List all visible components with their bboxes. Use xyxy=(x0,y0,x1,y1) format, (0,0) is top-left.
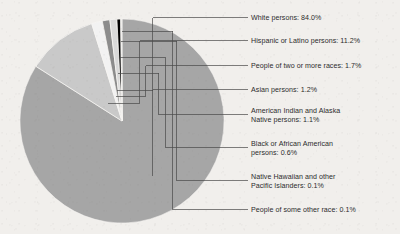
callout-label-people-of-some-other-race: People of some other race: 0.1% xyxy=(251,206,356,215)
pie-slices xyxy=(20,19,224,223)
callout-label-hispanic-or-latino-persons: Hispanic or Latino persons: 11.2% xyxy=(251,37,360,46)
chart-canvas: White persons: 84.0% Hispanic or Latino … xyxy=(0,0,400,234)
callout-label-white-persons: White persons: 84.0% xyxy=(251,14,321,23)
callout-label-asian-persons: Asian persons: 1.2% xyxy=(251,86,317,95)
callout-label-native-hawaiian-pacific-islanders: Native Hawaiian and other Pacific Island… xyxy=(251,173,335,191)
callout-label-american-indian-alaska-native: American Indian and Alaska Native person… xyxy=(251,107,340,125)
callout-label-black-or-african-american-persons: Black or African American persons: 0.6% xyxy=(251,140,333,158)
callout-label-people-of-two-or-more-races: People of two or more races: 1.7% xyxy=(251,62,361,71)
